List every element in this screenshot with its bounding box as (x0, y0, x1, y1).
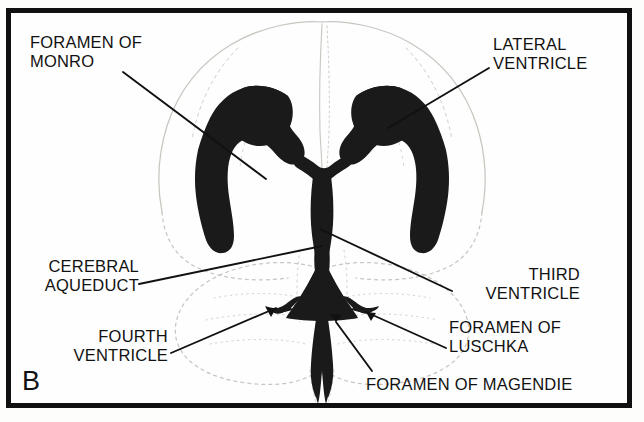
leader-cerebral-aqueduct (139, 246, 322, 284)
third-ventricle (311, 170, 334, 258)
label-fourth-ventricle: FOURTH VENTRICLE (0, 327, 168, 364)
ventricle-shapes (195, 86, 449, 404)
leader-foramen-of-magendie (336, 322, 372, 371)
figure-panel: FORAMEN OF MONRO LATERAL VENTRICLE CEREB… (0, 0, 644, 422)
label-lateral-ventricle: LATERAL VENTRICLE (493, 35, 587, 72)
label-third-ventricle: THIRD VENTRICLE (400, 265, 580, 302)
label-foramen-of-magendie: FORAMEN OF MAGENDIE (366, 375, 572, 394)
label-foramen-of-luschka: FORAMEN OF LUSCHKA (449, 318, 561, 355)
label-cerebral-aqueduct: CEREBRAL AQUEDUCT (0, 257, 139, 294)
leader-foramen-of-luschka (366, 312, 446, 348)
leader-fourth-ventricle (171, 308, 276, 353)
panel-letter: B (22, 366, 40, 396)
label-foramen-of-monro: FORAMEN OF MONRO (30, 33, 142, 70)
